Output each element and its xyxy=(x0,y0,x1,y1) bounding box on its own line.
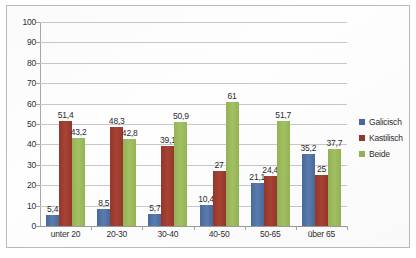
x-tick-mark xyxy=(194,226,195,230)
bar[interactable]: 8,5 xyxy=(97,209,110,226)
bar[interactable]: 48,3 xyxy=(110,127,123,226)
x-tick-mark xyxy=(347,226,348,230)
bar-value-label: 8,5 xyxy=(98,198,109,208)
bar[interactable]: 25 xyxy=(315,175,328,226)
bar[interactable]: 21,1 xyxy=(251,183,264,226)
y-tick-mark xyxy=(36,42,40,43)
bar-value-label: 24,4 xyxy=(262,165,278,175)
y-tick-label: 10 xyxy=(10,201,36,211)
y-tick-mark xyxy=(36,124,40,125)
x-tick-mark xyxy=(142,226,143,230)
x-tick-mark xyxy=(245,226,246,230)
bar[interactable]: 61 xyxy=(226,102,239,226)
y-tick-label: 20 xyxy=(10,180,36,190)
legend-label: Beide xyxy=(369,149,390,159)
bar[interactable]: 50,9 xyxy=(174,122,187,226)
bar-slot: 10,4 xyxy=(200,22,213,226)
bar-slot: 35,2 xyxy=(302,22,315,226)
chart-frame: 0102030405060708090100 5,451,443,28,548,… xyxy=(6,5,410,248)
x-axis-tick-labels: unter 2020-3030-4040-5050-65über 65 xyxy=(40,229,347,245)
y-tick-label: 80 xyxy=(10,58,36,68)
x-tick-label: 50-65 xyxy=(260,229,281,239)
legend-swatch-icon xyxy=(359,135,365,141)
y-tick-label: 40 xyxy=(10,139,36,149)
bar-slot: 42,8 xyxy=(123,22,136,226)
bar[interactable]: 51,4 xyxy=(59,121,72,226)
bar[interactable]: 10,4 xyxy=(200,205,213,226)
bar-group: 10,42761 xyxy=(194,22,245,226)
y-tick-mark xyxy=(36,226,40,227)
bar-slot: 51,4 xyxy=(59,22,72,226)
bar-value-label: 51,7 xyxy=(275,110,291,120)
bar[interactable]: 5,4 xyxy=(46,215,59,226)
y-tick-mark xyxy=(36,22,40,23)
bar-value-label: 5,7 xyxy=(149,203,160,213)
legend-swatch-icon xyxy=(359,119,365,125)
bar-slot: 21,1 xyxy=(251,22,264,226)
bar-value-label: 35,2 xyxy=(301,143,317,153)
bar-slot: 48,3 xyxy=(110,22,123,226)
x-tick-mark xyxy=(91,226,92,230)
bar-value-label: 25 xyxy=(317,164,326,174)
bar[interactable]: 5,7 xyxy=(148,214,161,226)
y-tick-label: 50 xyxy=(10,119,36,129)
bar[interactable]: 27 xyxy=(213,171,226,226)
legend-item-galicisch[interactable]: Galicisch xyxy=(359,116,411,127)
bar-group: 8,548,342,8 xyxy=(91,22,142,226)
x-tick-label: 30-40 xyxy=(158,229,179,239)
bar-group: 5,739,150,9 xyxy=(142,22,193,226)
legend-item-kastilisch[interactable]: Kastilisch xyxy=(359,132,411,143)
bar[interactable]: 24,4 xyxy=(264,176,277,226)
bar-slot: 24,4 xyxy=(264,22,277,226)
x-tick-label: unter 20 xyxy=(51,229,81,239)
bar[interactable]: 35,2 xyxy=(302,154,315,226)
bar-slot: 61 xyxy=(226,22,239,226)
legend-swatch-icon xyxy=(359,151,365,157)
bar-group: 35,22537,7 xyxy=(296,22,347,226)
y-tick-label: 90 xyxy=(10,37,36,47)
bar-value-label: 5,4 xyxy=(47,204,58,214)
bar[interactable]: 42,8 xyxy=(123,139,136,226)
bar-value-label: 43,2 xyxy=(71,127,87,137)
bar-value-label: 48,3 xyxy=(109,116,125,126)
y-tick-mark xyxy=(36,83,40,84)
y-tick-label: 30 xyxy=(10,160,36,170)
bar-value-label: 51,4 xyxy=(58,110,74,120)
y-tick-mark xyxy=(36,104,40,105)
x-tick-label: 20-30 xyxy=(106,229,127,239)
bar[interactable]: 43,2 xyxy=(72,138,85,226)
legend-item-beide[interactable]: Beide xyxy=(359,148,411,159)
bar-slot: 50,9 xyxy=(174,22,187,226)
chart-legend: GalicischKastilischBeide xyxy=(359,116,411,164)
plot-area: 5,451,443,28,548,342,85,739,150,910,4276… xyxy=(40,22,347,226)
bar-slot: 5,4 xyxy=(46,22,59,226)
y-tick-mark xyxy=(36,63,40,64)
y-tick-label: 100 xyxy=(10,17,36,27)
bar-slot: 51,7 xyxy=(277,22,290,226)
legend-label: Kastilisch xyxy=(369,133,403,143)
y-tick-label: 60 xyxy=(10,99,36,109)
legend-label: Galicisch xyxy=(369,117,402,127)
bar-group: 5,451,443,2 xyxy=(40,22,91,226)
bar-value-label: 37,7 xyxy=(327,138,343,148)
x-tick-mark xyxy=(296,226,297,230)
bar-value-label: 50,9 xyxy=(173,111,189,121)
bar[interactable]: 37,7 xyxy=(328,149,341,226)
x-tick-label: über 65 xyxy=(308,229,335,239)
bar-value-label: 61 xyxy=(228,91,237,101)
y-tick-mark xyxy=(36,144,40,145)
bar[interactable]: 51,7 xyxy=(277,121,290,226)
y-tick-label: 70 xyxy=(10,78,36,88)
bar-value-label: 10,4 xyxy=(198,194,214,204)
y-tick-label: 0 xyxy=(10,221,36,231)
bar-slot: 43,2 xyxy=(72,22,85,226)
bar-slot: 25 xyxy=(315,22,328,226)
y-axis-tick-labels: 0102030405060708090100 xyxy=(7,22,36,226)
bar[interactable]: 39,1 xyxy=(161,146,174,226)
bar-slot: 39,1 xyxy=(161,22,174,226)
bar-value-label: 39,1 xyxy=(160,135,176,145)
x-tick-label: 40-50 xyxy=(209,229,230,239)
bar-slot: 5,7 xyxy=(148,22,161,226)
y-tick-mark xyxy=(36,206,40,207)
bar-value-label: 42,8 xyxy=(122,128,138,138)
